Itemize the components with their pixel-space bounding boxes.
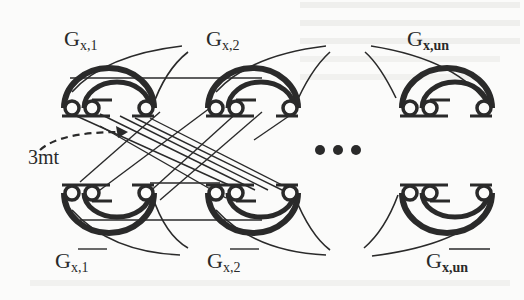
diagram-canvas: Gx,1 Gx,2 Gx,un Gx,1 Gx,2 Gx,un 3mt — [0, 0, 524, 300]
gadget-g-x-1 — [62, 68, 154, 116]
label-g-x-2-bar: Gx,2 — [207, 248, 240, 275]
gadget-g-x-2-bar — [206, 185, 298, 233]
label-g-x-un-bar: Gx,un — [426, 248, 468, 275]
gadget-diagram: Gx,1 Gx,2 Gx,un Gx,1 Gx,2 Gx,un 3mt — [0, 0, 524, 300]
ellipsis-dots — [315, 145, 361, 155]
gadget-g-x-un-bar — [400, 185, 492, 233]
label-g-x-1-bar: Gx,1 — [55, 248, 88, 275]
gadget-g-x-1-bar — [62, 185, 154, 233]
gadget-g-x-2 — [206, 68, 298, 116]
label-g-x-un: Gx,un — [407, 26, 449, 53]
annotation-3mt: 3mt — [28, 146, 60, 168]
label-g-x-1: Gx,1 — [64, 26, 97, 53]
label-g-x-2: Gx,2 — [206, 26, 239, 53]
